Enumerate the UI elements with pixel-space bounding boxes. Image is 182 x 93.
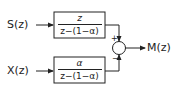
fraction-bar-bottom: [58, 69, 102, 70]
output-label-m: M(z): [147, 42, 171, 54]
numerator-top: z: [77, 13, 82, 23]
transfer-function-bottom: α z−(1−α): [57, 58, 102, 81]
input-label-x: X(z): [7, 65, 29, 77]
denominator-top: z−(1−α): [60, 26, 99, 36]
denominator-bottom: z−(1−α): [60, 71, 99, 81]
numerator-bottom: α: [77, 58, 83, 68]
transfer-function-top: z z−(1−α): [57, 13, 102, 36]
input-label-s: S(z): [7, 19, 28, 31]
plus-sign: +: [111, 35, 118, 43]
summing-junction: [113, 42, 126, 55]
fraction-bar-top: [58, 24, 102, 25]
minus-sign: −: [112, 55, 119, 63]
